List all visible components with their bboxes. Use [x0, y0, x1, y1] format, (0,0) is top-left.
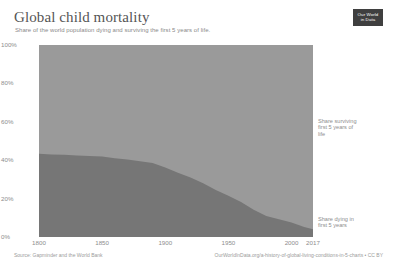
y-axis-tick: 100% [1, 41, 37, 48]
x-axis-tick: 1850 [95, 239, 109, 246]
footer-source: Source: Gapminder and the World Bank [14, 252, 103, 258]
series-label-surviving: Share surviving first 5 years of life [318, 118, 357, 137]
y-axis-tick: 80% [1, 79, 37, 86]
area-chart-svg [39, 45, 313, 237]
x-axis: 180018501900195020002017 [39, 239, 313, 251]
series-label-dying: Share dying in first 5 years [318, 216, 354, 229]
y-axis-tick: 40% [1, 156, 37, 163]
y-axis-tick: 20% [1, 195, 37, 202]
plot-area [39, 45, 313, 237]
page-title: Global child mortality [14, 9, 150, 26]
x-axis-tick: 1900 [158, 239, 172, 246]
x-axis-tick: 1800 [32, 239, 46, 246]
owid-logo-line2: in Data [353, 17, 383, 22]
x-axis-tick: 2017 [306, 239, 320, 246]
footer: Source: Gapminder and the World Bank Our… [0, 252, 393, 264]
y-axis-tick: 60% [1, 118, 37, 125]
owid-logo[interactable]: Our World in Data [353, 9, 383, 26]
chart-subtitle: Share of the world population dying and … [15, 27, 210, 33]
x-axis-tick: 1950 [222, 239, 236, 246]
y-axis: 0%20%40%60%80%100% [0, 45, 37, 237]
chart-page: Global child mortality Share of the worl… [0, 0, 393, 272]
x-axis-tick: 2000 [285, 239, 299, 246]
footer-link[interactable]: OurWorldInData.org/a-history-of-global-l… [215, 252, 383, 258]
